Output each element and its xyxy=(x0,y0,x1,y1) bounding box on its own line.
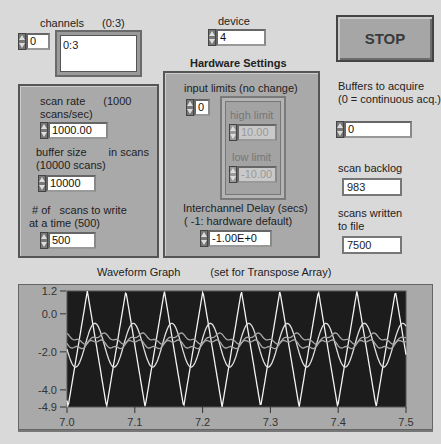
scan-rate-label: scan rate(1000 xyxy=(40,95,131,108)
low-limit-control: -10.00 xyxy=(229,166,277,183)
scan-backlog-label: scan backlog xyxy=(338,162,402,175)
scans-to-write-default-label: at a time (500) xyxy=(29,217,100,230)
svg-text:1.2: 1.2 xyxy=(42,285,57,297)
spinner-icon[interactable] xyxy=(336,121,344,138)
scans-to-write-control[interactable]: 500 xyxy=(40,232,96,249)
scans-to-write-label: # of scans to write xyxy=(32,204,127,217)
channels-index-control[interactable]: 0 xyxy=(18,33,50,50)
buffers-to-acquire-hint: (0 = continuous acq.) xyxy=(338,93,441,106)
channels-input[interactable]: 0:3 xyxy=(60,35,137,72)
scan-backlog-indicator: 983 xyxy=(342,178,402,196)
spinner-icon xyxy=(229,124,237,141)
interchannel-delay-field[interactable]: -1.00E+0 xyxy=(208,230,272,247)
channels-index-field[interactable]: 0 xyxy=(26,33,50,50)
device-field[interactable]: 4 xyxy=(216,29,266,46)
svg-text:7.5: 7.5 xyxy=(398,416,413,428)
buffer-size-label: buffer sizein scans xyxy=(36,146,149,159)
interchannel-delay-control[interactable]: -1.00E+0 xyxy=(200,230,272,247)
spinner-icon xyxy=(229,166,237,183)
buffers-to-acquire-control[interactable]: 0 xyxy=(336,121,412,138)
stop-button[interactable]: STOP xyxy=(336,15,434,62)
svg-text:7.4: 7.4 xyxy=(331,416,346,428)
input-limits-index-field[interactable]: 0 xyxy=(194,99,210,116)
buffers-to-acquire-field[interactable]: 0 xyxy=(344,121,412,138)
device-label: device xyxy=(218,15,250,28)
channels-array-frame: 0:3 xyxy=(55,30,142,77)
graph-title: Waveform Graph(set for Transpose Array) xyxy=(97,266,331,279)
interchannel-delay-hint: ( -1: hardware default) xyxy=(184,215,292,228)
buffer-size-default-label: (10000 scans) xyxy=(36,159,106,172)
spinner-icon[interactable] xyxy=(38,175,46,192)
svg-text:7.0: 7.0 xyxy=(59,416,74,428)
scan-rate-field[interactable]: 1000.00 xyxy=(48,122,108,139)
svg-text:-2.0: -2.0 xyxy=(38,346,57,358)
buffer-size-control[interactable]: 10000 xyxy=(38,175,96,192)
spinner-icon[interactable] xyxy=(200,230,208,247)
low-limit-field: -10.00 xyxy=(237,166,277,183)
svg-text:7.1: 7.1 xyxy=(127,416,142,428)
high-limit-label: high limit xyxy=(230,109,273,122)
high-limit-field: 10.00 xyxy=(237,124,277,141)
spinner-icon[interactable] xyxy=(18,33,26,50)
waveform-graph: 1.20.0-2.0-4.0-4.9 7.07.17.27.37.47.5 xyxy=(18,284,433,430)
scans-written-label: scans written xyxy=(338,207,402,220)
high-limit-control: 10.00 xyxy=(229,124,277,141)
low-limit-label: low limit xyxy=(232,151,271,164)
buffer-size-field[interactable]: 10000 xyxy=(46,175,96,192)
svg-text:0.0: 0.0 xyxy=(42,308,57,320)
buffers-to-acquire-label: Buffers to acquire xyxy=(338,80,424,93)
input-limits-label: input limits (no change) xyxy=(184,82,298,95)
scan-rate-unit-label: scans/sec) xyxy=(40,108,93,121)
spinner-icon[interactable] xyxy=(208,29,216,46)
spinner-icon[interactable] xyxy=(186,99,194,116)
scans-written-indicator: 7500 xyxy=(342,236,402,254)
channels-label: channels(0:3) xyxy=(40,17,125,30)
waveform-plot: 1.20.0-2.0-4.0-4.9 7.07.17.27.37.47.5 xyxy=(18,284,433,430)
scans-written-label-2: to file xyxy=(338,220,364,233)
device-control[interactable]: 4 xyxy=(208,29,266,46)
svg-text:7.2: 7.2 xyxy=(195,416,210,428)
scan-rate-control[interactable]: 1000.00 xyxy=(40,122,108,139)
svg-text:7.3: 7.3 xyxy=(263,416,278,428)
scans-to-write-field[interactable]: 500 xyxy=(48,232,96,249)
spinner-icon[interactable] xyxy=(40,232,48,249)
hardware-settings-title: Hardware Settings xyxy=(190,57,287,70)
interchannel-delay-label: Interchannel Delay (secs) xyxy=(183,202,308,215)
svg-text:-4.9: -4.9 xyxy=(38,401,57,413)
input-limits-index-control[interactable]: 0 xyxy=(186,99,210,116)
svg-text:-4.0: -4.0 xyxy=(38,384,57,396)
spinner-icon[interactable] xyxy=(40,122,48,139)
